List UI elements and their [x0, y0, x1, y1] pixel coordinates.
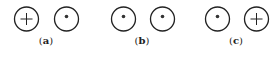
cross-circle-icon — [245, 7, 269, 31]
dot-circle-icon — [112, 7, 136, 31]
panel-b-label: (b) — [135, 35, 150, 46]
cross-circle-icon — [15, 7, 39, 31]
paren-close: ) — [146, 35, 150, 46]
panel-b — [112, 7, 175, 31]
panel-a — [15, 7, 79, 31]
panel-letter: b — [139, 35, 146, 46]
paren-close: ) — [239, 35, 243, 46]
dot-circle-icon — [151, 7, 175, 31]
panel-a-label: (a) — [39, 35, 53, 46]
dot-circle-icon — [206, 7, 230, 31]
panel-c — [206, 7, 269, 31]
diagram-canvas — [0, 0, 278, 59]
paren-close: ) — [49, 35, 53, 46]
panel-c-label: (c) — [229, 35, 243, 46]
dot-circle-icon — [55, 7, 79, 31]
